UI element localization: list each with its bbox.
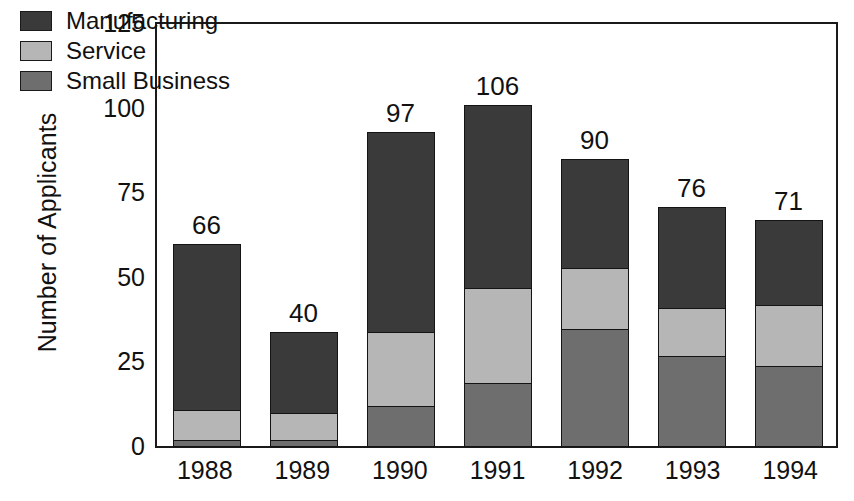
y-axis-tick-label: 0	[85, 434, 145, 459]
x-axis-tick-label: 1993	[665, 455, 721, 485]
bar-segment	[561, 268, 629, 329]
bar-stack	[755, 220, 823, 447]
bar-stack	[367, 132, 435, 447]
bar-group: 66	[173, 24, 241, 447]
bar-segment	[755, 305, 823, 366]
bar-segment	[755, 220, 823, 305]
bar-segment	[270, 440, 338, 447]
bar-total-label: 76	[677, 175, 706, 201]
bar-segment	[561, 159, 629, 267]
bar-group: 90	[561, 24, 629, 447]
x-axis-tick-labels: 1988198919901991199219931994	[155, 455, 838, 495]
bar-total-label: 106	[476, 73, 519, 99]
x-axis-tick-label: 1994	[762, 455, 818, 485]
bar-segment	[367, 406, 435, 447]
x-axis-tick-label: 1989	[275, 455, 331, 485]
bar-segment	[464, 288, 532, 383]
bar-group: 71	[755, 24, 823, 447]
bar-segment	[464, 105, 532, 288]
bar-segment	[658, 356, 726, 447]
bar-segment	[173, 244, 241, 410]
x-axis-tick-label: 1991	[470, 455, 526, 485]
bar-segment	[367, 332, 435, 406]
bar-group: 40	[270, 24, 338, 447]
bar-total-label: 40	[289, 300, 318, 326]
bar-stack	[173, 244, 241, 447]
bar-group: 97	[367, 24, 435, 447]
y-axis-tick-label: 75	[85, 180, 145, 205]
bar-segment	[658, 207, 726, 309]
bar-segment	[270, 413, 338, 440]
bar-segment	[464, 383, 532, 447]
bar-stack	[270, 332, 338, 447]
bar-group: 106	[464, 24, 532, 447]
bar-segment	[270, 332, 338, 413]
y-axis-tick-label: 100	[85, 96, 145, 121]
y-axis-tick-label: 25	[85, 349, 145, 374]
bar-stack	[561, 159, 629, 447]
legend-item-label: Service	[66, 39, 146, 63]
stacked-bar-chart: Number of Applicants 1251007550250 Manuf…	[0, 0, 854, 501]
bar-segment	[755, 366, 823, 447]
legend-swatch-icon	[20, 11, 52, 31]
bar-segment	[173, 410, 241, 440]
x-axis-tick-label: 1988	[177, 455, 233, 485]
x-axis-tick-label: 1992	[567, 455, 623, 485]
y-axis-title: Number of Applicants	[33, 68, 62, 398]
legend-swatch-icon	[20, 71, 52, 91]
bar-total-label: 66	[192, 212, 221, 238]
bar-total-label: 71	[774, 188, 803, 214]
bar-segment	[658, 308, 726, 355]
bar-segment	[561, 329, 629, 447]
x-axis-tick-label: 1990	[372, 455, 428, 485]
bar-group: 76	[658, 24, 726, 447]
bar-total-label: 90	[580, 127, 609, 153]
legend-swatch-icon	[20, 41, 52, 61]
bar-stack	[658, 207, 726, 447]
bar-segment	[173, 440, 241, 447]
bar-stack	[464, 105, 532, 447]
bar-total-label: 97	[386, 100, 415, 126]
plot-area: 664097106907671	[157, 24, 836, 447]
bar-segment	[367, 132, 435, 332]
y-axis-tick-label: 50	[85, 265, 145, 290]
